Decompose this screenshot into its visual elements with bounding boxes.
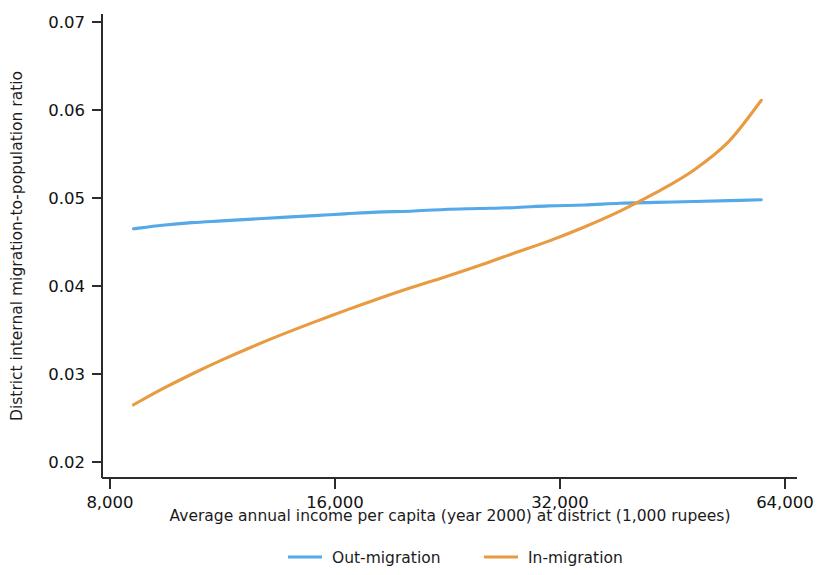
x-tick-label: 8,000 <box>86 493 133 512</box>
legend-label-in-migration: In-migration <box>528 549 623 567</box>
y-tick-label: 0.03 <box>48 365 85 384</box>
y-tick-label: 0.06 <box>48 101 85 120</box>
y-tick-label: 0.04 <box>48 277 85 296</box>
y-tick-label: 0.05 <box>48 189 85 208</box>
legend-label-out-migration: Out-migration <box>332 549 441 567</box>
y-axis-title: District internal migration-to-populatio… <box>8 71 26 421</box>
x-tick-label: 64,000 <box>756 493 814 512</box>
migration-income-line-chart: 0.020.030.040.050.060.07 8,00016,00032,0… <box>0 0 818 575</box>
y-tick-label: 0.02 <box>48 453 85 472</box>
x-axis-title: Average annual income per capita (year 2… <box>170 507 731 525</box>
y-tick-label: 0.07 <box>48 13 85 32</box>
